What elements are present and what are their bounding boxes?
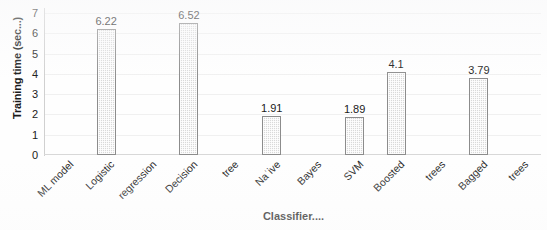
y-axis-tick: 4 [22, 68, 38, 80]
bar: 4.1 [387, 72, 406, 155]
bar: 6.52 [179, 23, 198, 155]
bar-value-label: 6.52 [178, 9, 199, 21]
bar-value-label: 6.22 [95, 15, 116, 27]
bars-layer: 6.226.521.911.894.13.79 [44, 13, 541, 155]
y-axis-tick: 6 [22, 27, 38, 39]
bar: 1.89 [345, 117, 364, 155]
bar-chart: Training time (sec...) 01234567 6.226.52… [0, 0, 547, 230]
y-axis-tick: 5 [22, 48, 38, 60]
bar: 6.22 [97, 29, 116, 155]
y-axis-tick: 7 [22, 7, 38, 19]
bar: 1.91 [262, 116, 281, 155]
bar-value-label: 1.89 [344, 103, 365, 115]
plot-area: 6.226.521.911.894.13.79 [44, 13, 541, 155]
bar-value-label: 3.79 [468, 64, 489, 76]
y-axis-tick: 2 [22, 108, 38, 120]
x-axis-title: Classifier.... [0, 210, 547, 222]
y-axis-tick: 1 [22, 129, 38, 141]
y-axis-tick: 0 [22, 149, 38, 161]
y-axis-tick-labels: 01234567 [22, 6, 38, 156]
y-axis-tick: 3 [22, 88, 38, 100]
bar-value-label: 4.1 [388, 58, 403, 70]
x-axis-tick-labels: ML modelLogisticregressionDecisiontreeNa… [44, 158, 541, 210]
bar: 3.79 [469, 78, 488, 155]
bar-value-label: 1.91 [261, 102, 282, 114]
